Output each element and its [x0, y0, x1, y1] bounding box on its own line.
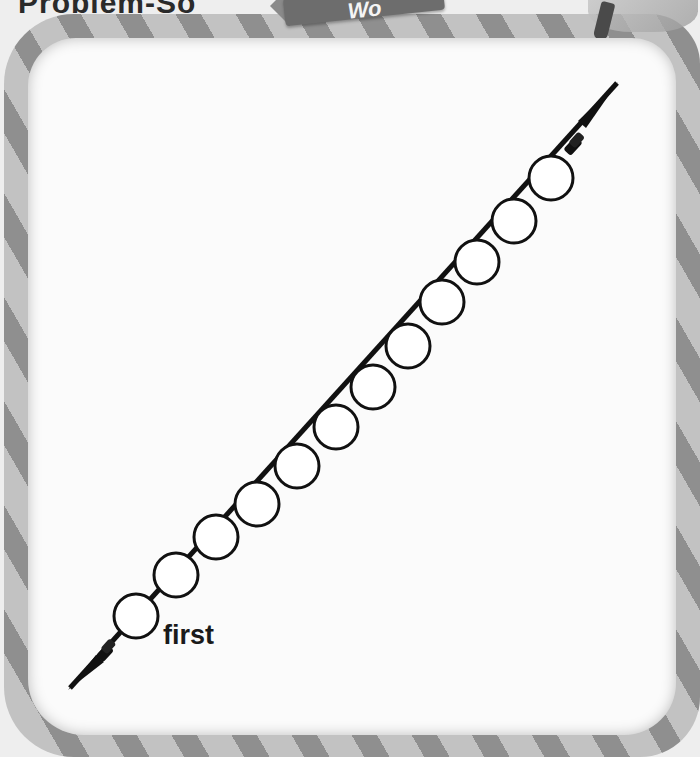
bead-11[interactable]	[492, 199, 536, 243]
bead-2[interactable]	[154, 553, 198, 597]
bead-12[interactable]	[529, 156, 573, 200]
needle-tip-top-icon	[578, 82, 618, 128]
bead-1[interactable]	[114, 594, 158, 638]
needle-tip-bottom-icon	[68, 655, 104, 690]
bead-3[interactable]	[194, 515, 238, 559]
bead-7[interactable]	[351, 365, 395, 409]
bead-6[interactable]	[314, 405, 358, 449]
bead-5[interactable]	[275, 444, 319, 488]
knot-top-icon	[563, 131, 585, 156]
bead-string-diagram	[0, 0, 700, 757]
bead-8[interactable]	[386, 324, 430, 368]
bead-10[interactable]	[455, 240, 499, 284]
bead-9[interactable]	[420, 280, 464, 324]
beads-group	[114, 156, 573, 638]
first-label: first	[163, 620, 214, 651]
bead-4[interactable]	[235, 482, 279, 526]
